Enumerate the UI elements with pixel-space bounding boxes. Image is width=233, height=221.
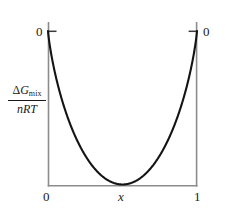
axis-frame: [48, 22, 198, 187]
mix-subscript: mix: [29, 89, 42, 98]
x-axis-left-tick-label: 0: [43, 190, 50, 203]
x-axis-right-tick-label: 1: [194, 190, 201, 203]
y-axis-top-right-tick-label: 0: [203, 25, 210, 38]
y-axis-top-left-tick-label: 0: [36, 25, 43, 38]
gibbs-symbol: G: [20, 83, 29, 97]
delta-symbol: Δ: [12, 83, 20, 97]
mixing-free-energy-figure: 0 0 0 1 x ΔGmix nRT: [0, 0, 233, 221]
mixing-curve-path: [48, 31, 197, 184]
y-axis-title-denominator: nRT: [8, 102, 46, 116]
fraction-rule: [8, 100, 46, 101]
x-axis-title: x: [118, 190, 124, 203]
y-axis-title-numerator: ΔGmix: [8, 84, 46, 99]
y-axis-title: ΔGmix nRT: [8, 84, 46, 116]
mixing-curve: [48, 31, 197, 184]
